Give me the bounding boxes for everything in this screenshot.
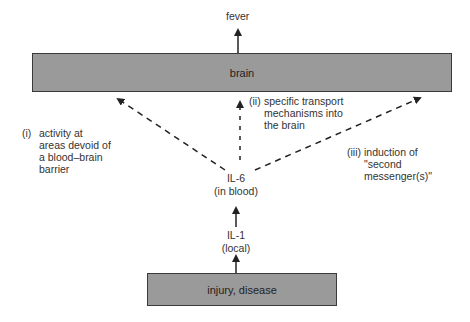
brain-box: brain [32, 53, 452, 92]
pathway-iii-line2: "second [364, 158, 402, 171]
il1-node: IL-1 (local) [206, 229, 266, 254]
pathway-i-line1: activity at [39, 127, 83, 140]
pathway-i-arrow [118, 99, 225, 170]
pathway-ii-line3: the brain [264, 119, 305, 132]
il6-node: IL-6 (in blood) [206, 172, 266, 197]
pathway-iii-number: (iii) [347, 146, 361, 159]
pathway-ii-annotation: (ii) specific transport mechanisms into … [249, 95, 369, 135]
pathway-iii-line1: induction of [364, 146, 418, 159]
pathway-i-line4: barrier [39, 163, 69, 176]
pathway-i-line3: a blood–brain [39, 151, 103, 164]
pathway-iii-annotation: (iii) induction of "second messenger(s)" [347, 146, 457, 186]
pathway-ii-line2: mechanisms into [264, 107, 343, 120]
il1-sublabel: (local) [206, 242, 266, 255]
il6-sublabel: (in blood) [206, 185, 266, 198]
il1-label: IL-1 [206, 229, 266, 242]
injury-box: injury, disease [147, 273, 337, 306]
pathway-i-annotation: (i) activity at areas devoid of a blood–… [22, 127, 132, 187]
fever-label: fever [226, 10, 249, 23]
pathway-i-line2: areas devoid of [39, 139, 111, 152]
injury-label: injury, disease [207, 284, 277, 296]
il6-label: IL-6 [206, 172, 266, 185]
pathway-i-number: (i) [22, 127, 31, 140]
brain-label: brain [230, 67, 254, 79]
pathway-ii-number: (ii) [249, 95, 261, 108]
pathway-ii-line1: specific transport [264, 95, 343, 108]
pathway-iii-line3: messenger(s)" [364, 170, 432, 183]
